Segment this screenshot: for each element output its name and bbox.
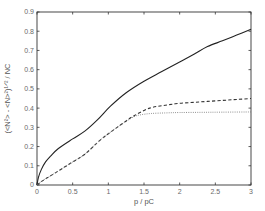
y-tick-label: 0.9 — [24, 8, 34, 15]
y-tick-label: 0.4 — [24, 105, 34, 112]
x-tick-label: 3 — [249, 188, 253, 195]
x-tick-labels: 00.511.522.53 — [35, 188, 253, 195]
x-tick-label: 2 — [178, 188, 182, 195]
series-line-solid — [37, 29, 251, 185]
y-tick-label: 0.2 — [24, 143, 34, 150]
axis-ticks — [37, 12, 251, 185]
y-tick-label: 0.1 — [24, 162, 34, 169]
x-tick-label: 2.5 — [210, 188, 220, 195]
x-tick-label: 0 — [35, 188, 39, 195]
x-tick-label: 1 — [106, 188, 110, 195]
y-tick-label: 0.7 — [24, 47, 34, 54]
series-group — [37, 29, 251, 185]
y-tick-label: 0 — [30, 181, 34, 188]
y-tick-labels: 00.10.20.30.40.50.60.70.80.9 — [24, 8, 34, 188]
series-line-dotted — [37, 112, 251, 185]
y-tick-label: 0.3 — [24, 124, 34, 131]
x-axis-label: p / pC — [134, 197, 155, 206]
x-tick-label: 1.5 — [139, 188, 149, 195]
plot-frame — [37, 12, 251, 185]
y-tick-label: 0.8 — [24, 28, 34, 35]
line-chart: 00.511.522.53 00.10.20.30.40.50.60.70.80… — [0, 0, 265, 211]
x-tick-label: 0.5 — [68, 188, 78, 195]
y-tick-label: 0.5 — [24, 85, 34, 92]
y-tick-label: 0.6 — [24, 66, 34, 73]
y-axis-label: (<N²> - <N>²)¹ᐟ² / NC — [3, 63, 12, 134]
